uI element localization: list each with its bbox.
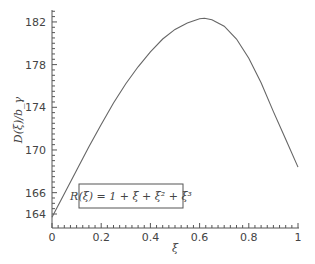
annotation-box: R(ξ) = 1 + ξ + ξ² + ξ³ — [69, 184, 192, 208]
chart: 164166170174178182 00.20.40.60.81 D(ξ)/b… — [0, 0, 315, 264]
y-tick-label: 182 — [25, 16, 46, 29]
y-tick-label: 174 — [25, 101, 46, 114]
y-tick-labels: 164166170174178182 — [25, 16, 46, 221]
y-axis-label: D(ξ)/b_γ — [12, 96, 25, 144]
x-tick-label: 0 — [49, 231, 56, 244]
y-tick-label: 178 — [25, 59, 46, 72]
y-axis — [52, 10, 57, 228]
x-tick-label: 1 — [295, 231, 302, 244]
x-axis-label: ξ — [172, 242, 179, 255]
x-tick-label: 0.4 — [142, 231, 160, 244]
x-tick-label: 0.2 — [92, 231, 110, 244]
y-tick-label: 170 — [25, 144, 46, 157]
x-tick-label: 0.8 — [240, 231, 258, 244]
annotation-text: R(ξ) = 1 + ξ + ξ² + ξ³ — [69, 190, 192, 203]
y-tick-label: 166 — [25, 187, 46, 200]
y-tick-label: 164 — [25, 208, 46, 221]
x-tick-label: 0.6 — [191, 231, 209, 244]
x-axis — [52, 223, 299, 228]
